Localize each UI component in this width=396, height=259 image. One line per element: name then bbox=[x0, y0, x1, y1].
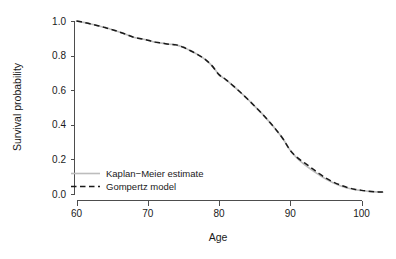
y-tick-label: 0.8 bbox=[52, 50, 66, 61]
y-tick-label: 0.6 bbox=[52, 85, 66, 96]
survival-curve-figure: 0.00.20.40.60.81.0 60708090100 Kaplan−Me… bbox=[0, 0, 396, 259]
y-tick-label: 1.0 bbox=[52, 16, 66, 27]
x-tick-label: 80 bbox=[213, 208, 225, 219]
y-tick-label: 0.2 bbox=[52, 154, 66, 165]
x-tick-label: 60 bbox=[71, 208, 83, 219]
chart-canvas: 0.00.20.40.60.81.0 60708090100 Kaplan−Me… bbox=[0, 0, 396, 259]
x-tick-label: 100 bbox=[353, 208, 370, 219]
y-tick-label: 0.0 bbox=[52, 189, 66, 200]
y-axis-title: Survival probability bbox=[11, 62, 23, 151]
y-tick-label: 0.4 bbox=[52, 119, 66, 130]
legend-label-gompertz: Gompertz model bbox=[106, 181, 176, 192]
x-tick-label: 70 bbox=[142, 208, 154, 219]
x-tick-label: 90 bbox=[285, 208, 297, 219]
x-axis-title: Age bbox=[209, 231, 228, 243]
legend-label-kaplan-meier: Kaplan−Meier estimate bbox=[106, 168, 203, 179]
